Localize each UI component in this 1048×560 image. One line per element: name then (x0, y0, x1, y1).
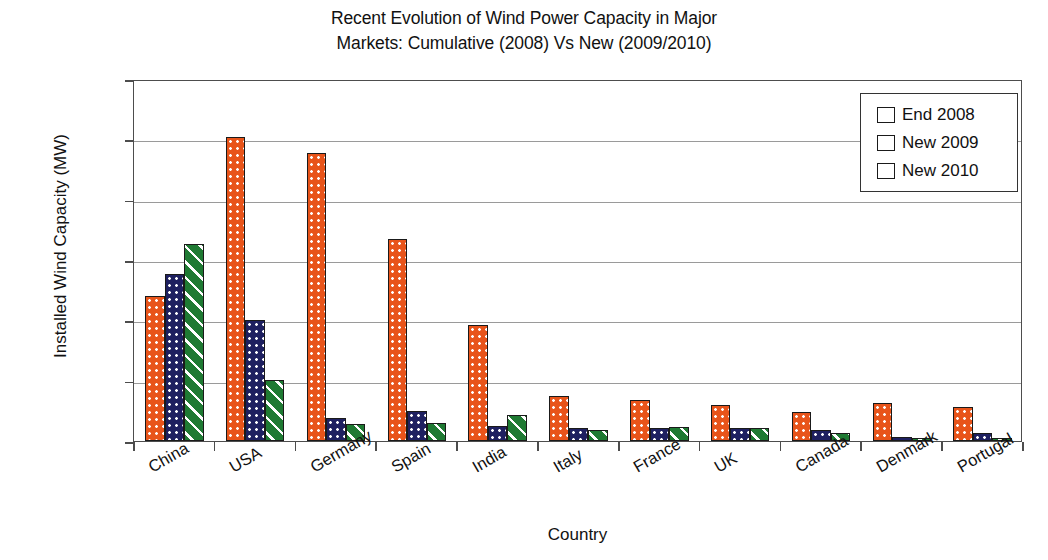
bar-spain-new-2010 (427, 423, 447, 441)
bar-china-new-2010 (184, 244, 204, 441)
bar-germany-end-2008 (307, 153, 327, 441)
y-tick-mark-5000 (125, 382, 133, 384)
wind-power-capacity-bar-chart: Recent Evolution of Wind Power Capacity … (0, 0, 1048, 560)
x-tick-label-india: India (469, 442, 509, 476)
legend-swatch-new-2010 (877, 163, 895, 179)
gridline-10000 (134, 322, 1021, 323)
legend-swatch-end-2008 (877, 107, 895, 123)
bar-india-new-2009 (488, 426, 508, 441)
x-tick-mark-4 (456, 442, 458, 451)
x-tick-mark-6 (618, 442, 620, 451)
bar-uk-new-2009 (730, 428, 750, 441)
bar-india-end-2008 (468, 325, 488, 441)
bar-germany-new-2009 (326, 418, 346, 441)
x-tick-mark-end (1022, 442, 1024, 451)
y-tick-mark-10000 (125, 321, 133, 323)
bar-uk-new-2010 (750, 428, 770, 442)
legend-label-new-2009: New 2009 (902, 133, 979, 153)
x-tick-label-uk: UK (711, 449, 740, 477)
bar-italy-new-2010 (588, 430, 608, 441)
bar-usa-new-2010 (265, 380, 285, 441)
legend-item-new-2009: New 2009 (877, 129, 1017, 157)
bar-china-new-2009 (165, 274, 185, 441)
x-tick-mark-3 (375, 442, 377, 451)
bar-uk-end-2008 (711, 405, 731, 441)
x-tick-mark-0 (133, 442, 135, 451)
bar-usa-end-2008 (226, 137, 246, 441)
bar-italy-new-2009 (569, 428, 589, 441)
bar-portugal-end-2008 (953, 407, 973, 442)
x-axis-title: Country (133, 525, 1022, 545)
x-tick-label-spain: Spain (388, 439, 434, 477)
y-tick-mark-25000 (125, 140, 133, 142)
y-tick-mark-0 (125, 442, 133, 444)
legend-swatch-new-2009 (877, 135, 895, 151)
x-tick-mark-10 (941, 442, 943, 451)
x-tick-label-usa: USA (226, 443, 265, 476)
y-tick-mark-30000 (125, 80, 133, 82)
legend-label-end-2008: End 2008 (902, 105, 975, 125)
chart-title-line-2: Markets: Cumulative (2008) Vs New (2009/… (0, 31, 1048, 56)
x-tick-mark-9 (860, 442, 862, 451)
bar-spain-new-2009 (407, 411, 427, 441)
y-tick-mark-15000 (125, 261, 133, 263)
bar-china-end-2008 (145, 296, 165, 441)
legend-label-new-2010: New 2010 (902, 161, 979, 181)
x-tick-mark-5 (537, 442, 539, 451)
bar-canada-end-2008 (792, 412, 812, 441)
x-tick-mark-2 (295, 442, 297, 451)
legend-item-new-2010: New 2010 (877, 157, 1017, 185)
bar-denmark-end-2008 (873, 403, 893, 441)
legend: End 2008 New 2009 New 2010 (860, 93, 1018, 192)
y-axis-title: Installed Wind Capacity (MW) (51, 56, 71, 436)
chart-title-line-1: Recent Evolution of Wind Power Capacity … (0, 6, 1048, 31)
x-tick-mark-1 (214, 442, 216, 451)
gridline-15000 (134, 262, 1021, 263)
x-tick-label-italy: Italy (550, 445, 586, 477)
bar-spain-end-2008 (388, 239, 408, 441)
x-tick-mark-8 (780, 442, 782, 451)
x-tick-label-china: China (145, 438, 192, 476)
chart-title: Recent Evolution of Wind Power Capacity … (0, 6, 1048, 56)
bar-italy-end-2008 (549, 396, 569, 441)
bar-france-end-2008 (630, 400, 650, 441)
bar-india-new-2010 (507, 415, 527, 441)
y-tick-mark-20000 (125, 201, 133, 203)
x-tick-mark-7 (699, 442, 701, 451)
bar-usa-new-2009 (245, 320, 265, 441)
gridline-20000 (134, 202, 1021, 203)
legend-item-end-2008: End 2008 (877, 101, 1017, 129)
